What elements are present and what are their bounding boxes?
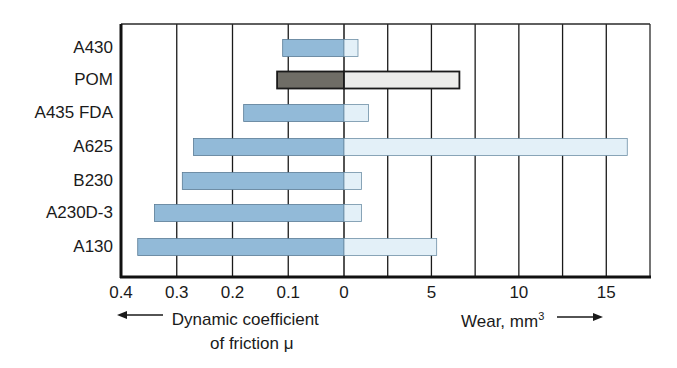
wear-bar [344,105,368,122]
friction-bar [193,139,344,156]
friction-wear-chart: A430POMA435 FDAA625B230A230D-3A130 0.40.… [0,0,677,368]
friction-bar [283,40,344,57]
arrow-right-icon [557,307,607,327]
category-label: B230 [73,171,113,191]
friction-bar [182,173,344,190]
category-label: A435 FDA [35,103,113,123]
wear-bar [344,239,437,256]
wear-bar [344,173,361,190]
category-label: POM [74,70,113,90]
wear-bar [344,72,459,89]
right-axis-title-sup: 3 [538,310,544,322]
left-axis-title-line1: Dynamic coefficient [172,310,319,329]
friction-tick-label: 0.1 [276,283,300,303]
friction-bar [277,72,344,89]
friction-tick-label: 0.4 [109,283,133,303]
category-label: A625 [73,137,113,157]
friction-tick-label: 0.2 [221,283,245,303]
wear-bar [344,139,627,156]
friction-tick-label: 0 [339,283,348,303]
wear-tick-label: 15 [597,283,616,303]
category-label: A230D-3 [46,203,113,223]
wear-tick-label: 5 [427,283,436,303]
friction-bar [154,205,344,222]
friction-bar [138,239,344,256]
category-label: A430 [73,38,113,58]
right-axis-title-text: Wear, mm [461,312,538,331]
wear-tick-label: 10 [509,283,528,303]
arrow-left-icon [117,305,167,325]
left-axis-title-line2: of friction μ [210,334,294,354]
left-axis-title: Dynamic coefficient [117,310,319,330]
friction-bar [244,105,344,122]
wear-bar [344,205,361,222]
right-axis-title: Wear, mm3 [461,310,607,332]
category-label: A130 [73,237,113,257]
left-axis-title-line2-text: of friction μ [210,334,294,353]
wear-bar [344,40,358,57]
friction-tick-label: 0.3 [165,283,189,303]
